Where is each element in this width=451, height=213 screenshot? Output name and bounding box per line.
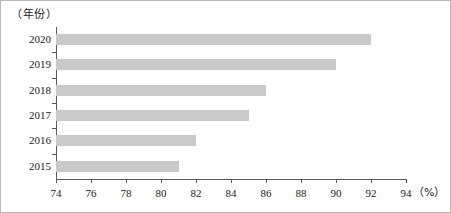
y-axis-tick	[52, 154, 56, 155]
y-axis-tick	[52, 103, 56, 104]
x-axis-tick-label: 80	[149, 187, 173, 199]
category-label-2018: 2018	[11, 85, 51, 96]
x-axis-tick-label: 76	[79, 187, 103, 199]
x-axis-tick-label: 74	[44, 187, 68, 199]
x-axis-tick	[301, 179, 302, 183]
bar-2017	[56, 110, 249, 121]
x-axis-tick	[91, 179, 92, 183]
bar-2019	[56, 59, 336, 70]
x-axis-tick	[406, 179, 407, 183]
x-axis-tick-label: 78	[114, 187, 138, 199]
plot-area	[56, 27, 406, 179]
bar-chart-figure: （年份） （%） 2020201920182017201620157476788…	[0, 0, 451, 213]
bar-2015	[56, 161, 179, 172]
x-axis-tick	[336, 179, 337, 183]
x-axis-tick	[371, 179, 372, 183]
y-axis-caption: （年份）	[11, 5, 57, 21]
y-axis-tick	[52, 128, 56, 129]
y-axis-tick	[52, 78, 56, 79]
category-label-2019: 2019	[11, 59, 51, 70]
x-axis-tick-label: 94	[394, 187, 418, 199]
y-axis-tick	[52, 52, 56, 53]
bar-2018	[56, 85, 266, 96]
category-label-2016: 2016	[11, 135, 51, 146]
x-axis-tick	[231, 179, 232, 183]
x-axis-tick	[161, 179, 162, 183]
bar-2020	[56, 34, 371, 45]
x-axis-tick-label: 86	[254, 187, 278, 199]
x-axis-tick	[56, 179, 57, 183]
bar-2016	[56, 135, 196, 146]
x-axis-tick	[266, 179, 267, 183]
x-axis-tick	[196, 179, 197, 183]
category-label-2020: 2020	[11, 34, 51, 45]
x-axis-tick-label: 82	[184, 187, 208, 199]
x-axis-tick	[126, 179, 127, 183]
x-axis-tick-label: 84	[219, 187, 243, 199]
category-label-2017: 2017	[11, 110, 51, 121]
category-label-2015: 2015	[11, 161, 51, 172]
x-axis-tick-label: 90	[324, 187, 348, 199]
x-axis-tick-label: 88	[289, 187, 313, 199]
x-axis-tick-label: 92	[359, 187, 383, 199]
